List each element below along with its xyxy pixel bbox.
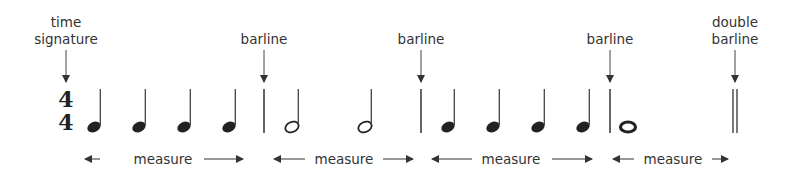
time-signature-bottom: 4: [58, 109, 73, 135]
quarter-note: [530, 89, 547, 134]
measure-label-3: measure: [482, 151, 541, 167]
half-note: [357, 89, 374, 134]
measure-labels: measure measure measure measure: [85, 151, 728, 167]
double-barline-label-line1: double: [712, 14, 758, 30]
note-head: [621, 122, 636, 132]
barline-label-1: barline: [241, 31, 288, 47]
time-signature-label-line2: signature: [34, 31, 98, 47]
measure-label-2: measure: [315, 151, 374, 167]
quarter-note: [440, 89, 457, 134]
quarter-note: [86, 89, 103, 134]
barline-label-2: barline: [398, 31, 445, 47]
quarter-note: [485, 89, 502, 134]
whole-note: [621, 122, 636, 132]
quarter-note: [221, 89, 238, 134]
notes-group: [86, 89, 636, 134]
quarter-note: [131, 89, 148, 134]
rhythm-diagram: time signature 4 4 barline barline barli…: [0, 0, 786, 188]
quarter-note: [176, 89, 193, 134]
measure-label-4: measure: [644, 151, 703, 167]
measure-label-1: measure: [134, 151, 193, 167]
barline-label-3: barline: [587, 31, 634, 47]
quarter-note: [575, 89, 592, 134]
double-barline-label-line2: barline: [712, 31, 759, 47]
time-signature-label-line1: time: [51, 14, 82, 30]
half-note: [284, 89, 301, 134]
